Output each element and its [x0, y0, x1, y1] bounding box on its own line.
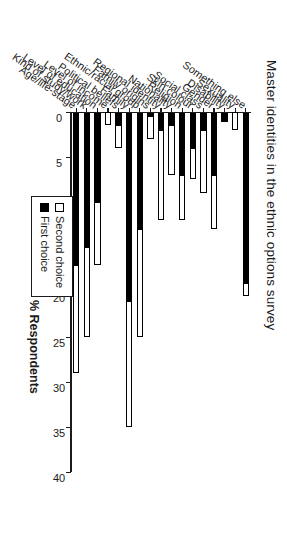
bar-row	[84, 113, 90, 337]
category-axis-tick	[192, 108, 193, 112]
bar-row	[126, 113, 132, 427]
bar-segment-second-choice	[147, 116, 153, 139]
category-axis-tick	[160, 108, 161, 112]
bar-segment-second-choice	[211, 175, 217, 229]
value-axis-tick-label: 40	[53, 472, 65, 484]
bar-row	[243, 113, 249, 296]
bar-row	[115, 113, 121, 148]
bar-row	[200, 113, 206, 193]
bar-segment-second-choice	[126, 301, 132, 427]
bar-segment-first-choice	[211, 113, 217, 176]
bar-row	[168, 113, 174, 175]
bar-row	[147, 113, 153, 139]
chart-figure: Master identities in the ethnic options …	[0, 0, 287, 554]
value-axis-tick	[66, 157, 71, 158]
value-axis-tick-label: 0	[56, 112, 62, 124]
bar-segment-second-choice	[190, 148, 196, 180]
bar-row	[105, 113, 111, 125]
category-axis-tick	[203, 108, 204, 112]
bar-segment-first-choice	[73, 113, 79, 266]
bar-segment-second-choice	[84, 247, 90, 337]
category-axis-tick	[150, 108, 151, 112]
category-axis-tick	[76, 108, 77, 112]
bar-segment-second-choice	[179, 175, 185, 220]
bar-segment-second-choice	[168, 125, 174, 175]
value-axis-tick	[66, 382, 71, 383]
value-axis-tick-label: 35	[53, 427, 65, 439]
category-axis-tick	[97, 108, 98, 112]
chart-legend: Second choice First choice	[31, 196, 73, 297]
category-axis-tick	[213, 108, 214, 112]
bar-segment-first-choice	[84, 113, 90, 248]
legend-label-second-choice: Second choice	[52, 216, 67, 288]
value-axis-tick	[66, 427, 71, 428]
bar-segment-first-choice	[158, 113, 164, 131]
bar-segment-first-choice	[221, 113, 227, 122]
bar-segment-first-choice	[179, 113, 185, 176]
plot-area: 0510152025303540 Age/life-stageKind of s…	[71, 112, 251, 472]
bar-segment-second-choice	[115, 125, 121, 148]
bar-row	[221, 113, 227, 122]
bar-segment-second-choice	[232, 112, 238, 130]
category-axis-tick	[245, 108, 246, 112]
category-axis-tick	[86, 108, 87, 112]
value-axis-tick-label: 5	[56, 157, 62, 169]
bar-row	[94, 113, 100, 265]
value-axis-tick	[66, 337, 71, 338]
value-axis-tick	[66, 472, 71, 473]
bar-segment-second-choice	[73, 265, 79, 373]
bar-row	[137, 113, 143, 337]
category-axis-tick	[182, 108, 183, 112]
bar-segment-first-choice	[190, 113, 196, 149]
bar-row	[158, 113, 164, 220]
bar-row	[211, 113, 217, 229]
bar-segment-second-choice	[94, 202, 100, 265]
value-axis-tick-label: 30	[53, 382, 65, 394]
value-axis-tick	[66, 112, 71, 113]
bar-segment-first-choice	[137, 113, 143, 230]
value-axis-title: % Respondents	[27, 300, 41, 394]
chart-title: Master identities in the ethnic options …	[264, 60, 279, 330]
category-axis-tick	[224, 108, 225, 112]
bar-row	[190, 113, 196, 179]
bar-row	[179, 113, 185, 220]
legend-swatch-first-choice	[40, 203, 49, 212]
category-axis-tick	[129, 108, 130, 112]
category-axis-tick	[139, 108, 140, 112]
legend-label-first-choice: First choice	[37, 216, 52, 272]
bar-segment-second-choice	[137, 229, 143, 337]
category-axis-tick	[118, 108, 119, 112]
legend-item-second-choice: Second choice	[52, 203, 67, 288]
legend-swatch-second-choice	[55, 203, 64, 212]
value-axis-tick-label: 25	[53, 337, 65, 349]
bar-segment-first-choice	[200, 113, 206, 131]
bar-segment-second-choice	[243, 283, 249, 297]
bar-row	[73, 113, 79, 373]
bar-row	[232, 113, 238, 130]
category-axis-tick	[171, 108, 172, 112]
bar-segment-second-choice	[158, 130, 164, 220]
legend-item-first-choice: First choice	[37, 203, 52, 288]
bar-segment-first-choice	[126, 113, 132, 302]
bar-segment-first-choice	[94, 113, 100, 203]
bar-segment-second-choice	[105, 112, 111, 126]
bar-segment-first-choice	[243, 113, 249, 284]
bar-segment-second-choice	[200, 130, 206, 193]
